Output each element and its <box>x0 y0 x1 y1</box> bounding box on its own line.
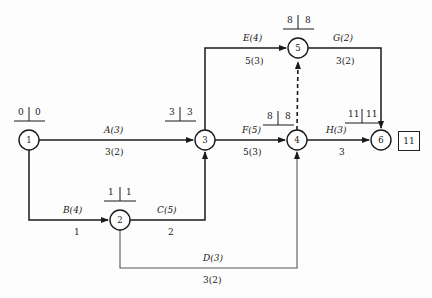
node-1-earliest-time: 0 <box>18 108 24 117</box>
activity-label-D: D(3) <box>203 254 223 263</box>
node-6-latest-time: 11 <box>366 110 377 119</box>
activity-cost-E: 5(3) <box>245 57 263 66</box>
node-label-1[interactable]: 1 <box>19 136 39 145</box>
activity-cost-F: 5(3) <box>243 148 261 157</box>
activity-cost-H: 3 <box>339 148 345 157</box>
node-label-3[interactable]: 3 <box>195 136 215 145</box>
node-3-latest-time: 3 <box>187 108 193 117</box>
node-2-latest-time: 1 <box>126 188 132 197</box>
activity-arrow-dummy <box>297 62 298 130</box>
activity-label-F: F(5) <box>242 126 261 135</box>
activity-label-H: H(3) <box>326 126 347 135</box>
node-3-earliest-time: 3 <box>169 108 175 117</box>
node-5-earliest-time: 8 <box>287 16 293 25</box>
node-2-earliest-time: 1 <box>108 188 114 197</box>
activity-cost-D: 3(2) <box>203 276 221 285</box>
activity-label-G: G(2) <box>333 34 353 43</box>
activity-label-C: C(5) <box>157 206 177 215</box>
activity-cost-A: 3(2) <box>105 148 123 157</box>
activity-cost-G: 3(2) <box>336 57 354 66</box>
activity-label-E: E(4) <box>243 34 262 43</box>
project-completion-box: 11 <box>398 131 420 151</box>
node-label-4[interactable]: 4 <box>287 136 307 145</box>
event-time-brackets <box>14 15 379 201</box>
node-4-earliest-time: 8 <box>267 112 273 121</box>
activity-cost-C: 2 <box>168 228 174 237</box>
node-label-2[interactable]: 2 <box>110 216 130 225</box>
node-5-latest-time: 8 <box>305 16 311 25</box>
activity-label-B: B(4) <box>63 206 82 215</box>
node-label-5[interactable]: 5 <box>288 44 308 53</box>
node-4-latest-time: 8 <box>285 112 291 121</box>
node-label-6[interactable]: 6 <box>371 136 391 145</box>
activity-cost-B: 1 <box>74 228 80 237</box>
node-6-earliest-time: 11 <box>348 110 359 119</box>
network-diagram-canvas: 1 2 3 4 5 6 0 0 1 1 3 3 8 8 8 8 11 11 A(… <box>0 0 432 298</box>
activity-label-A: A(3) <box>104 126 123 135</box>
node-1-latest-time: 0 <box>35 108 41 117</box>
activity-arrow-D <box>120 152 297 268</box>
